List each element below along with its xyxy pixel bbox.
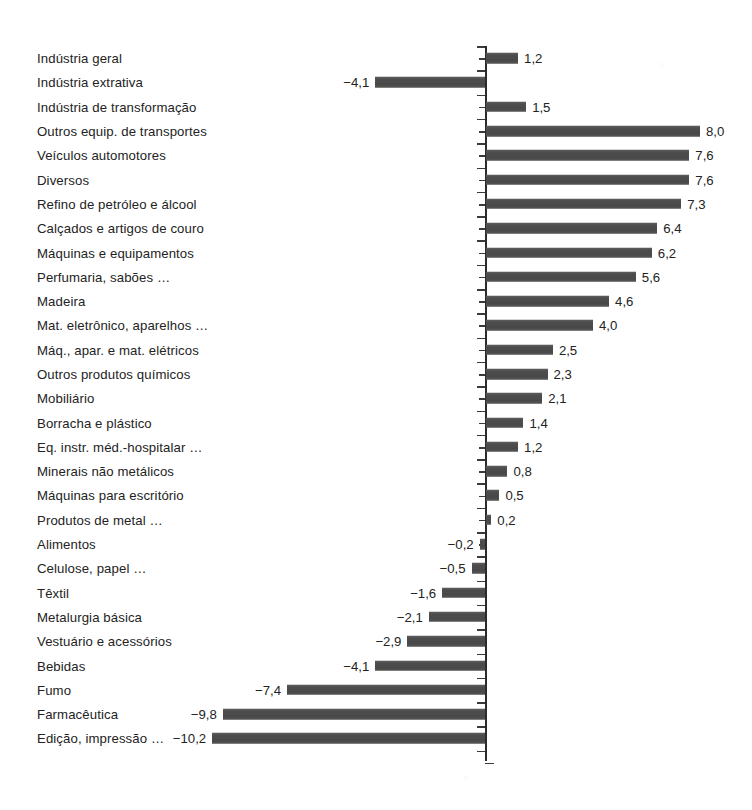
bar bbox=[486, 320, 593, 331]
horizontal-bar-chart: Indústria geral1,2Indústria extrativa−4,… bbox=[0, 0, 752, 810]
axis-foot-tick bbox=[485, 763, 494, 765]
chart-row: Vestuário e acessórios−2,9 bbox=[0, 629, 752, 653]
category-label: Mobiliário bbox=[37, 391, 94, 406]
bar bbox=[486, 296, 609, 307]
value-label: −10,2 bbox=[173, 731, 206, 746]
value-label: 6,2 bbox=[658, 245, 676, 260]
chart-rows: Indústria geral1,2Indústria extrativa−4,… bbox=[0, 46, 752, 751]
bar bbox=[480, 539, 485, 550]
bar bbox=[486, 344, 553, 355]
bar bbox=[486, 126, 700, 137]
chart-row: Produtos de metal …0,2 bbox=[0, 508, 752, 532]
chart-row: Celulose, papel …−0,5 bbox=[0, 556, 752, 580]
bar bbox=[442, 587, 485, 598]
value-label: 1,2 bbox=[524, 439, 542, 454]
value-label: −0,5 bbox=[440, 561, 466, 576]
value-label: −0,2 bbox=[448, 537, 474, 552]
chart-row: Máq., apar. e mat. elétricos2,5 bbox=[0, 338, 752, 362]
category-label: Celulose, papel … bbox=[37, 561, 146, 576]
bar bbox=[486, 490, 499, 501]
chart-row: Minerais não metálicos0,8 bbox=[0, 459, 752, 483]
category-label: Eq. instr. méd.-hospitalar … bbox=[37, 439, 203, 454]
value-label: 7,3 bbox=[687, 196, 705, 211]
category-label: Perfumaria, sabões … bbox=[37, 269, 170, 284]
value-label: −1,6 bbox=[410, 585, 436, 600]
value-label: 7,6 bbox=[695, 148, 713, 163]
category-label: Indústria geral bbox=[37, 51, 122, 66]
chart-row: Outros equip. de transportes8,0 bbox=[0, 119, 752, 143]
value-label: −7,4 bbox=[255, 682, 281, 697]
category-label: Veículos automotores bbox=[37, 148, 166, 163]
value-label: 1,4 bbox=[529, 415, 547, 430]
category-label: Produtos de metal … bbox=[37, 512, 163, 527]
chart-row: Mat. eletrônico, aparelhos …4,0 bbox=[0, 313, 752, 337]
category-label: Têxtil bbox=[37, 585, 69, 600]
value-label: 2,3 bbox=[554, 367, 572, 382]
value-label: 1,5 bbox=[532, 99, 550, 114]
category-label: Diversos bbox=[37, 172, 89, 187]
value-label: 0,5 bbox=[505, 488, 523, 503]
value-label: 4,0 bbox=[599, 318, 617, 333]
category-label: Bebidas bbox=[37, 658, 85, 673]
chart-row: Máquinas para escritório0,5 bbox=[0, 483, 752, 507]
bar bbox=[223, 709, 485, 720]
category-label: Máquinas para escritório bbox=[37, 488, 184, 503]
bar bbox=[375, 77, 485, 88]
category-label: Metalurgia básica bbox=[37, 609, 142, 624]
bar bbox=[486, 417, 523, 428]
chart-row: Veículos automotores7,6 bbox=[0, 143, 752, 167]
chart-row: Indústria extrativa−4,1 bbox=[0, 70, 752, 94]
category-label: Indústria extrativa bbox=[37, 75, 143, 90]
category-label: Edição, impressão … bbox=[37, 731, 164, 746]
bar bbox=[287, 685, 485, 696]
category-label: Refino de petróleo e álcool bbox=[37, 196, 197, 211]
bar bbox=[375, 660, 485, 671]
bar bbox=[486, 101, 526, 112]
category-label: Minerais não metálicos bbox=[37, 464, 174, 479]
value-label: −2,9 bbox=[375, 634, 401, 649]
chart-row: Perfumaria, sabões …5,6 bbox=[0, 265, 752, 289]
chart-row: Têxtil−1,6 bbox=[0, 581, 752, 605]
category-label: Fumo bbox=[37, 682, 71, 697]
value-label: 0,2 bbox=[497, 512, 515, 527]
category-label: Farmacêutica bbox=[37, 707, 118, 722]
chart-row: Farmacêutica−9,8 bbox=[0, 702, 752, 726]
chart-row: Madeira4,6 bbox=[0, 289, 752, 313]
bar bbox=[486, 150, 689, 161]
value-label: 6,4 bbox=[663, 221, 681, 236]
category-label: Borracha e plástico bbox=[37, 415, 152, 430]
bar bbox=[486, 369, 548, 380]
chart-row: Calçados e artigos de couro6,4 bbox=[0, 216, 752, 240]
bar bbox=[472, 563, 485, 574]
category-label: Indústria de transformação bbox=[37, 99, 196, 114]
bar bbox=[407, 636, 485, 647]
chart-row: Refino de petróleo e álcool7,3 bbox=[0, 192, 752, 216]
bar bbox=[486, 442, 518, 453]
bar bbox=[212, 733, 485, 744]
value-label: 2,5 bbox=[559, 342, 577, 357]
category-label: Máq., apar. e mat. elétricos bbox=[37, 342, 199, 357]
category-label: Calçados e artigos de couro bbox=[37, 221, 204, 236]
chart-row: Máquinas e equipamentos6,2 bbox=[0, 240, 752, 264]
chart-row: Bebidas−4,1 bbox=[0, 653, 752, 677]
bar bbox=[486, 272, 636, 283]
chart-row: Alimentos−0,2 bbox=[0, 532, 752, 556]
chart-row: Metalurgia básica−2,1 bbox=[0, 605, 752, 629]
value-label: −2,1 bbox=[397, 609, 423, 624]
bar bbox=[429, 612, 485, 623]
chart-row: Mobiliário2,1 bbox=[0, 386, 752, 410]
category-label: Máquinas e equipamentos bbox=[37, 245, 194, 260]
chart-row: Diversos7,6 bbox=[0, 167, 752, 191]
category-label: Madeira bbox=[37, 294, 85, 309]
bar bbox=[486, 174, 689, 185]
chart-row: Eq. instr. méd.-hospitalar …1,2 bbox=[0, 435, 752, 459]
value-label: 1,2 bbox=[524, 51, 542, 66]
chart-row: Fumo−7,4 bbox=[0, 678, 752, 702]
category-label: Mat. eletrônico, aparelhos … bbox=[37, 318, 208, 333]
value-label: 2,1 bbox=[548, 391, 566, 406]
chart-row: Indústria geral1,2 bbox=[0, 46, 752, 70]
value-label: −4,1 bbox=[343, 658, 369, 673]
value-label: 5,6 bbox=[642, 269, 660, 284]
axis-tick bbox=[477, 751, 485, 753]
category-label: Outros equip. de transportes bbox=[37, 124, 207, 139]
